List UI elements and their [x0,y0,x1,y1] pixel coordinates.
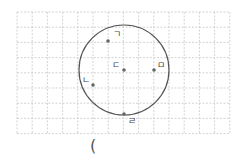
point [122,112,126,116]
point-label: ㄹ [128,116,136,126]
circle-grid-figure: ㄱㄴㄷㄹㅁ [0,0,241,160]
point-label: ㄴ [82,75,90,85]
point [122,68,126,72]
point [152,68,156,72]
point-label: ㅁ [157,60,165,70]
point-label: ㄱ [113,29,121,39]
point [106,39,110,43]
point [91,83,95,87]
point-label: ㄷ [112,60,120,70]
answer-blank-paren: ( [90,136,96,155]
